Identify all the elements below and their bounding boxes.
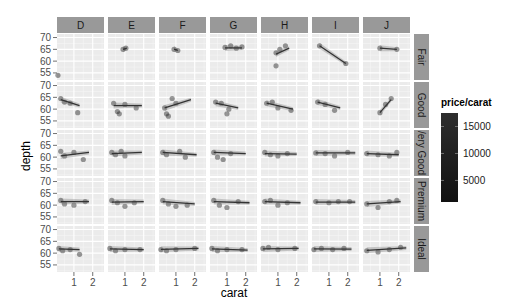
row-strip-label: Fair: [416, 48, 427, 66]
facet-panel: [363, 178, 410, 224]
facet-panel: [108, 130, 155, 176]
x-tick-label: 2: [396, 277, 402, 288]
facet-panel: [158, 226, 206, 272]
facet-panel: [210, 130, 257, 176]
y-tick-label: 65: [40, 140, 52, 151]
y-tick-label: 60: [40, 104, 52, 115]
facet-panel: [210, 34, 257, 80]
facet-panel: [312, 82, 359, 128]
row-strip: Fair: [414, 34, 429, 80]
x-tick-label: 1: [275, 277, 281, 288]
column-strip-label: E: [128, 20, 135, 31]
x-tick-label: 1: [122, 277, 128, 288]
y-tick-label: 55: [40, 211, 52, 222]
facet-panel: [363, 82, 410, 128]
y-tick-label: 55: [40, 259, 52, 270]
facet-panel: [159, 178, 206, 224]
legend-tick-label: 10000: [463, 148, 491, 159]
facet-panel: [108, 82, 155, 128]
column-strip: F: [159, 17, 206, 33]
facet-panel: [159, 82, 206, 128]
y-tick-label: 55: [40, 163, 52, 174]
column-strips: DEFGHIJ: [57, 17, 410, 33]
y-tick-label: 60: [40, 248, 52, 259]
facet-panel: [312, 178, 359, 224]
y-tick-label: 70: [40, 176, 52, 187]
x-tick-label: 1: [326, 277, 332, 288]
facet-panel: [57, 178, 104, 224]
row-strip-label: Good: [416, 93, 427, 117]
column-strip: H: [261, 17, 308, 33]
row-strip-label: Premium: [416, 181, 427, 221]
facet-panel: [261, 34, 308, 80]
x-tick-label: 1: [71, 277, 77, 288]
data-point: [166, 114, 171, 119]
data-point: [224, 111, 229, 116]
color-legend: price/carat 50001000015000: [441, 97, 492, 202]
smooth-line: [110, 249, 144, 250]
y-tick-label: 70: [40, 128, 52, 139]
data-point: [117, 111, 122, 116]
row-strip-label: /ery Good: [416, 131, 427, 175]
y-tick-label: 60: [40, 200, 52, 211]
row-strips: FairGood/ery GoodPremiumIdeal: [414, 34, 429, 272]
column-strip-label: I: [334, 20, 337, 31]
facet-panel: [108, 178, 155, 224]
facet-panel: [56, 226, 104, 272]
facet-panel: [159, 34, 206, 80]
faceted-scatter-plot: DEFGHIJ FairGood/ery GoodPremiumIdeal 55…: [0, 0, 518, 306]
legend-tick-label: 15000: [463, 121, 491, 132]
facet-panels: [55, 34, 410, 272]
x-tick-label: 2: [345, 277, 351, 288]
y-tick-label: 60: [40, 152, 52, 163]
x-tick-label: 2: [90, 277, 96, 288]
facet-panel: [57, 130, 104, 176]
facet-panel: [261, 82, 308, 128]
data-point: [81, 157, 86, 162]
data-point: [221, 157, 226, 162]
facet-panel: [210, 178, 257, 224]
facet-panel: [312, 130, 359, 176]
y-tick-label: 65: [40, 188, 52, 199]
x-tick-label: 1: [173, 277, 179, 288]
y-tick-label: 60: [40, 56, 52, 67]
facet-panel: [107, 226, 155, 272]
facet-panel: [261, 178, 308, 224]
y-tick-label: 55: [40, 115, 52, 126]
y-tick-label: 70: [40, 32, 52, 43]
column-strip: G: [210, 17, 257, 33]
column-strip-label: D: [77, 20, 84, 31]
x-tick-label: 2: [294, 277, 300, 288]
legend-title: price/carat: [441, 97, 492, 108]
column-strip-label: G: [230, 20, 238, 31]
facet-panel: [363, 226, 410, 272]
y-tick-label: 65: [40, 236, 52, 247]
y-tick-label: 70: [40, 80, 52, 91]
column-strip: I: [312, 17, 359, 33]
facet-panel: [363, 34, 410, 80]
data-point: [55, 73, 60, 78]
facet-panel: [363, 130, 410, 176]
x-tick-label: 1: [377, 277, 383, 288]
data-point: [170, 96, 175, 101]
facet-panel: [108, 34, 155, 80]
facet-panel: [159, 130, 206, 176]
x-axis-title: carat: [221, 286, 248, 300]
facet-panel: [209, 226, 257, 272]
row-strip: /ery Good: [414, 130, 429, 176]
row-strip: Premium: [414, 178, 429, 224]
legend-tick-label: 5000: [463, 175, 486, 186]
smooth-line: [59, 249, 80, 250]
column-strip-label: H: [281, 20, 288, 31]
data-point: [77, 252, 82, 257]
data-point: [273, 63, 278, 68]
facet-panel: [312, 34, 359, 80]
column-strip: J: [363, 17, 410, 33]
facet-panel: [57, 82, 104, 128]
column-strip: E: [108, 17, 155, 33]
y-tick-label: 65: [40, 44, 52, 55]
data-point: [224, 205, 229, 210]
row-strip-label: Ideal: [416, 238, 427, 260]
row-strip: Good: [414, 82, 429, 128]
y-tick-label: 55: [40, 67, 52, 78]
